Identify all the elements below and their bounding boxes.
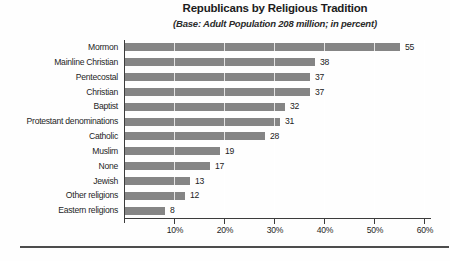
category-label: Baptist: [0, 99, 118, 114]
axis-tick-label: 20%: [210, 225, 240, 235]
gridline: [374, 40, 375, 217]
value-label: 38: [320, 55, 329, 70]
category-label: Muslim: [0, 144, 118, 159]
category-label: Christian: [0, 85, 118, 100]
page: Republicans by Religious Tradition (Base…: [0, 0, 450, 261]
category-label: Mormon: [0, 40, 118, 55]
y-axis-line: [124, 40, 125, 223]
value-label: 37: [315, 70, 324, 85]
category-label: Catholic: [0, 129, 118, 144]
chart-title: Republicans by Religious Tradition: [100, 2, 450, 14]
axis-tick: [324, 219, 325, 224]
axis-tick-label: 10%: [160, 225, 190, 235]
separator-line: [20, 246, 449, 248]
value-label: 17: [215, 159, 224, 174]
category-label: Eastern religions: [0, 203, 118, 218]
axis-tick-label: 60%: [410, 225, 440, 235]
category-label: None: [0, 159, 118, 174]
axis-tick-label: 30%: [260, 225, 290, 235]
bar: [125, 88, 310, 96]
value-label: 12: [190, 188, 199, 203]
bar: [125, 192, 185, 200]
bar: [125, 177, 190, 185]
value-label: 55: [405, 40, 414, 55]
chart-subtitle: (Base: Adult Population 208 million; in …: [100, 18, 450, 29]
value-label: 28: [270, 129, 279, 144]
axis-tick-label: 50%: [360, 225, 390, 235]
bar: [125, 58, 315, 66]
value-label: 32: [290, 99, 299, 114]
value-label: 37: [315, 85, 324, 100]
category-label: Protestant denominations: [0, 114, 118, 129]
value-label: 31: [285, 114, 294, 129]
axis-tick: [224, 219, 225, 224]
value-label: 19: [225, 144, 234, 159]
bar: [125, 103, 285, 111]
bar: [125, 132, 265, 140]
axis-tick: [274, 219, 275, 224]
category-label: Pentecostal: [0, 70, 118, 85]
gridline: [224, 40, 225, 217]
plot-area: Mormon55Mainline Christian38Pentecostal3…: [0, 40, 450, 218]
category-label: Other religions: [0, 188, 118, 203]
category-label: Jewish: [0, 174, 118, 189]
gridline: [174, 40, 175, 217]
bar: [125, 118, 280, 126]
axis-tick: [374, 219, 375, 224]
axis-tick-label: 40%: [310, 225, 340, 235]
axis-tick: [174, 219, 175, 224]
value-label: 13: [195, 174, 204, 189]
bar: [125, 207, 165, 215]
value-label: 8: [170, 203, 175, 218]
category-label: Mainline Christian: [0, 55, 118, 70]
bar: [125, 147, 220, 155]
bar: [125, 73, 310, 81]
bar: [125, 162, 210, 170]
gridline: [424, 40, 425, 217]
bar: [125, 43, 400, 51]
axis-tick: [424, 219, 425, 224]
